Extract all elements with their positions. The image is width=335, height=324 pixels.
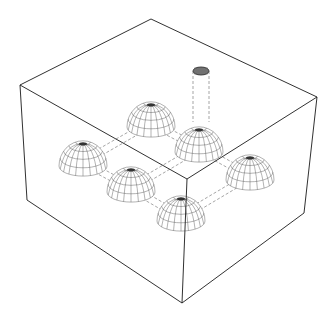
- dome-apex-cap: [147, 103, 155, 106]
- inlet-cylinder: [193, 67, 209, 122]
- hemisphere-back-right: [175, 127, 223, 162]
- hemisphere-right: [226, 155, 274, 190]
- hemisphere-front-left: [107, 167, 155, 202]
- dome-apex-cap: [127, 168, 135, 171]
- diagram-canvas: [0, 0, 335, 324]
- hemisphere-front: [157, 196, 205, 231]
- block-edge-left: [20, 85, 27, 200]
- dome-apex-cap: [177, 197, 185, 200]
- dome-apex-cap: [246, 156, 254, 159]
- hemisphere-left: [59, 141, 107, 176]
- hemisphere-back-center: [127, 102, 175, 137]
- hemisphere-cavities: [59, 102, 274, 231]
- block-edge-right: [304, 97, 317, 213]
- dome-apex-cap: [195, 128, 203, 131]
- block-wireframe-drawing: [0, 0, 335, 324]
- dome-apex-cap: [79, 142, 87, 145]
